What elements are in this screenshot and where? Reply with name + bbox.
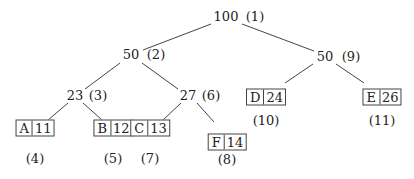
edge-n9-D [285, 64, 313, 83]
node-order-label: (6) [202, 89, 220, 103]
leaf-node-C: C13 [130, 120, 170, 137]
node-order-label: (3) [89, 89, 107, 103]
node-order-label: (2) [147, 48, 165, 62]
leaf-node-F: F14 [208, 134, 247, 151]
node-order-label: (5) [104, 152, 122, 166]
leaf-symbol: E [363, 90, 380, 105]
node-order-label: (10) [253, 114, 280, 128]
leaf-count: 13 [148, 121, 169, 136]
leaf-node-B: B12 [93, 120, 132, 137]
node-order-label: (1) [246, 10, 264, 24]
internal-node-weight: 50 [123, 48, 140, 62]
leaf-count: 24 [264, 90, 285, 105]
leaf-node-A: A11 [16, 120, 55, 137]
node-order-label: (9) [342, 50, 360, 64]
internal-node-weight: 23 [67, 89, 84, 103]
leaf-symbol: D [247, 90, 264, 105]
edge-n1-n9 [242, 24, 314, 51]
leaf-node-E: E26 [362, 89, 401, 106]
leaf-symbol: B [94, 121, 111, 136]
edge-n2-n6 [142, 63, 178, 89]
node-order-label: (4) [26, 152, 44, 166]
internal-node-weight: 100 [214, 10, 239, 24]
edge-n6-C [163, 103, 181, 120]
internal-node-weight: 50 [317, 50, 334, 64]
leaf-symbol: C [131, 121, 148, 136]
edge-n3-B [83, 103, 102, 120]
node-order-label: (8) [218, 153, 236, 167]
leaf-symbol: A [17, 121, 33, 136]
node-order-label: (7) [141, 152, 159, 166]
leaf-count: 12 [111, 121, 132, 136]
node-order-label: (11) [369, 114, 396, 128]
leaf-symbol: F [209, 135, 225, 150]
edge-n9-E [336, 64, 364, 83]
leaf-node-D: D24 [246, 89, 286, 106]
internal-node-weight: 27 [180, 89, 197, 103]
leaf-count: 14 [225, 135, 246, 150]
leaf-count: 26 [380, 90, 401, 105]
edge-n3-A [48, 103, 68, 120]
leaf-count: 11 [33, 121, 54, 136]
edge-n6-F [197, 103, 214, 122]
edge-n2-n3 [85, 63, 120, 89]
